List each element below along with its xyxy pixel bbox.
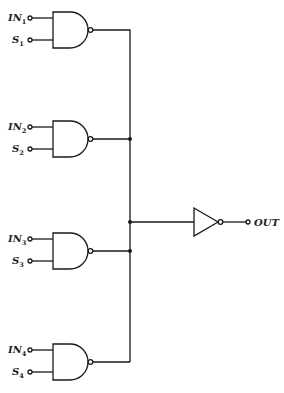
inverter-triangle bbox=[194, 208, 218, 236]
inversion-bubble-2 bbox=[88, 137, 93, 142]
input-label-in4: IN4 bbox=[7, 344, 27, 358]
logic-circuit-diagram: IN1 S1 IN2 S2 IN3 S3 IN4 S4 bbox=[0, 0, 284, 393]
nand-body-3 bbox=[53, 233, 88, 269]
inverter-gate: OUT bbox=[128, 208, 280, 236]
input-terminal-s3 bbox=[28, 259, 32, 263]
junction-dot-2 bbox=[128, 137, 132, 141]
input-terminal-in2 bbox=[28, 125, 32, 129]
input-label-s4: S4 bbox=[12, 366, 24, 380]
junction-dot-inverter bbox=[128, 220, 132, 224]
input-label-in2: IN2 bbox=[7, 121, 26, 135]
input-terminal-in1 bbox=[28, 16, 32, 20]
input-terminal-in4 bbox=[28, 348, 32, 352]
input-label-in1: IN1 bbox=[7, 12, 26, 26]
inversion-bubble-4 bbox=[88, 360, 93, 365]
inversion-bubble-3 bbox=[88, 249, 93, 254]
input-label-s1: S1 bbox=[12, 34, 24, 48]
input-terminal-s1 bbox=[28, 38, 32, 42]
nand-gate-1: IN1 S1 bbox=[7, 12, 130, 362]
input-label-s3: S3 bbox=[12, 255, 24, 269]
nand-body-1 bbox=[53, 12, 88, 48]
input-terminal-s2 bbox=[28, 147, 32, 151]
output-label: OUT bbox=[254, 217, 280, 228]
junction-dot-3 bbox=[128, 249, 132, 253]
output-terminal bbox=[246, 220, 250, 224]
input-label-s2: S2 bbox=[12, 143, 24, 157]
input-label-in3: IN3 bbox=[7, 233, 27, 247]
nand-gate-4: IN4 S4 bbox=[7, 344, 130, 380]
nand-gate-2: IN2 S2 bbox=[7, 121, 132, 157]
bus-wire bbox=[93, 30, 130, 362]
inverter-bubble bbox=[218, 220, 223, 225]
input-terminal-in3 bbox=[28, 237, 32, 241]
nand-body-4 bbox=[53, 344, 88, 380]
nand-gate-3: IN3 S3 bbox=[7, 233, 132, 269]
nand-body-2 bbox=[53, 121, 88, 157]
input-terminal-s4 bbox=[28, 370, 32, 374]
inversion-bubble-1 bbox=[88, 28, 93, 33]
